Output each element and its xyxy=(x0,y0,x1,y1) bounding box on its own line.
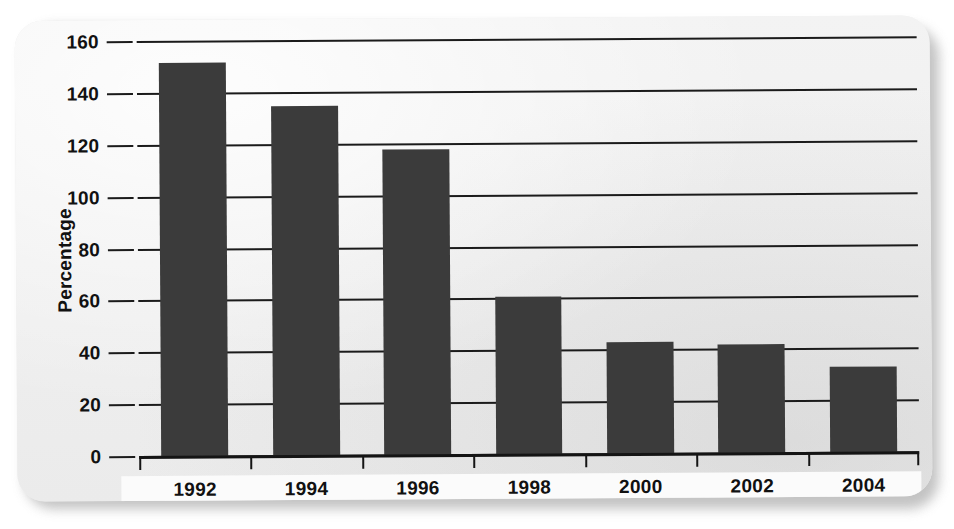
scanned-page: Percentage 020406080100120140160 1992199… xyxy=(0,0,954,529)
y-tick-mark-40 xyxy=(109,352,135,354)
x-axis-tick-label: 2002 xyxy=(730,475,774,497)
y-tick-mark-160 xyxy=(107,41,133,43)
y-tick-mark-120 xyxy=(107,145,133,147)
y-tick-mark-60 xyxy=(108,300,134,302)
y-tick-mark-20 xyxy=(109,404,135,406)
y-axis-tick-label: 80 xyxy=(78,239,100,261)
x-axis-end-tick xyxy=(139,458,141,470)
y-tick-mark-140 xyxy=(107,93,133,95)
x-axis-line xyxy=(139,451,919,459)
x-axis-tick-label: 1996 xyxy=(396,477,440,499)
plot-area: 020406080100120140160 199219941996199820… xyxy=(137,37,920,457)
y-axis-title-label: Percentage xyxy=(54,208,77,313)
x-axis-tick-mark xyxy=(251,457,253,469)
y-axis-tick-label: 40 xyxy=(79,343,101,365)
y-axis-tick-label: 160 xyxy=(66,31,98,53)
y-axis-tick-label: 0 xyxy=(90,446,101,468)
x-axis-tick-label: 2000 xyxy=(619,476,663,498)
y-axis-tick-label: 100 xyxy=(67,187,99,209)
y-tick-mark-80 xyxy=(108,249,134,251)
x-axis-tick-label: 1994 xyxy=(285,478,329,500)
y-tick-mark-100 xyxy=(108,197,134,199)
x-axis-tick-mark xyxy=(808,454,810,466)
x-axis-tick-mark xyxy=(585,455,587,467)
y-axis-tick-label: 140 xyxy=(67,83,99,105)
x-axis-ticks-layer: 1992199419961998200020022004 xyxy=(137,37,920,457)
x-axis-end-tick xyxy=(917,453,919,465)
x-axis-tick-label: 2004 xyxy=(842,474,886,496)
x-axis-tick-label: 1998 xyxy=(508,477,552,499)
x-axis-tick-mark xyxy=(696,455,698,467)
x-axis-tick-mark xyxy=(473,456,475,468)
x-axis-tick-mark xyxy=(362,457,364,469)
chart-card: Percentage 020406080100120140160 1992199… xyxy=(15,15,933,502)
y-tick-mark-0 xyxy=(109,456,135,458)
y-axis-tick-label: 60 xyxy=(79,291,101,313)
x-axis-tick-label: 1992 xyxy=(173,479,217,501)
y-axis-tick-label: 120 xyxy=(67,135,99,157)
y-axis-tick-label: 20 xyxy=(79,394,101,416)
